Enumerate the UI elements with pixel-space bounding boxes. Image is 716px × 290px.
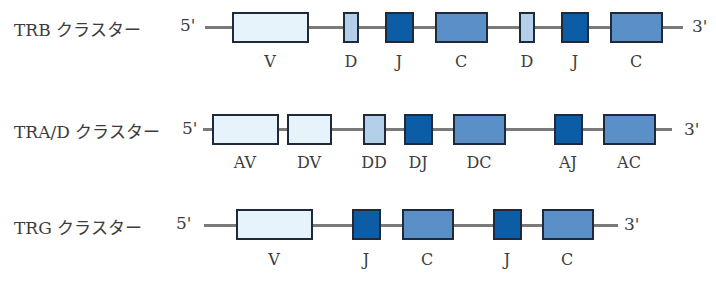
segment-label: V <box>268 250 280 269</box>
segment-dj <box>404 114 433 145</box>
segment-j <box>352 209 381 240</box>
three-prime-label: 3' <box>624 214 640 234</box>
three-prime-label: 3' <box>684 119 700 139</box>
segment-label: DV <box>297 153 321 172</box>
segment-av <box>212 114 279 145</box>
segment-ac <box>603 114 656 145</box>
five-prime-label: 5' <box>176 213 192 233</box>
segment-c <box>542 209 594 240</box>
segment-dd <box>363 114 386 145</box>
cluster-name: TRG クラスター <box>14 214 142 239</box>
segment-v <box>236 209 313 240</box>
segment-c <box>402 209 454 240</box>
segment-label: C <box>421 250 433 269</box>
segment-label: DJ <box>408 153 427 172</box>
segment-dv <box>287 114 332 145</box>
segment-dc <box>453 114 506 145</box>
segment-label: AC <box>617 153 641 172</box>
segment-label: J <box>504 250 510 269</box>
segment-label: C <box>561 250 573 269</box>
segment-label: DC <box>466 153 491 172</box>
segment-label: AV <box>234 153 256 172</box>
five-prime-label: 5' <box>182 118 198 138</box>
cluster-name: TRA/D クラスター <box>14 118 160 143</box>
segment-label: DD <box>361 153 387 172</box>
segment-aj <box>554 114 583 145</box>
segment-label: AJ <box>559 153 577 172</box>
segment-j <box>493 209 522 240</box>
trg-cluster: TRG クラスター 5' 3' V J C J C <box>0 0 716 80</box>
segment-label: J <box>363 250 369 269</box>
